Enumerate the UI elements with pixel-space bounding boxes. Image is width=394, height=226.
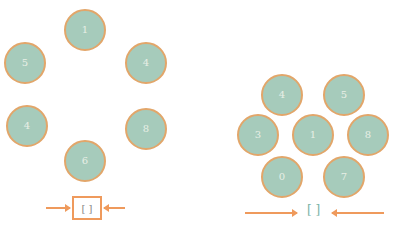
left-node-5: 8 [125,108,167,150]
right-node-7: 7 [323,156,365,198]
left-node-6: 6 [64,140,106,182]
result-label: [ ] [82,203,93,214]
node-label: 8 [143,124,149,134]
right-arrow-in-icon [332,212,384,214]
left-node-2: 5 [4,42,46,84]
node-label: 8 [365,130,371,140]
right-result-bracket: [ ] [307,203,320,217]
left-node-1: 1 [64,9,106,51]
right-node-5: 8 [347,114,389,156]
node-label: 1 [310,130,316,140]
left-result-box: [ ] [72,196,102,220]
left-arrow-in-icon [245,212,297,214]
left-arrow-in-icon [46,207,70,209]
node-label: 5 [22,58,28,68]
right-arrow-in-icon [104,207,125,209]
node-label: 0 [279,172,285,182]
right-node-1: 4 [261,74,303,116]
right-node-4: 1 [292,114,334,156]
right-node-3: 3 [237,114,279,156]
node-label: 3 [255,130,261,140]
node-label: 5 [341,90,347,100]
right-node-2: 5 [323,74,365,116]
node-label: 1 [82,25,88,35]
right-node-6: 0 [261,156,303,198]
left-node-3: 4 [125,42,167,84]
left-node-4: 4 [6,105,48,147]
node-label: 4 [24,121,30,131]
node-label: 6 [82,156,88,166]
node-label: 4 [279,90,285,100]
node-label: 4 [143,58,149,68]
node-label: 7 [341,172,347,182]
